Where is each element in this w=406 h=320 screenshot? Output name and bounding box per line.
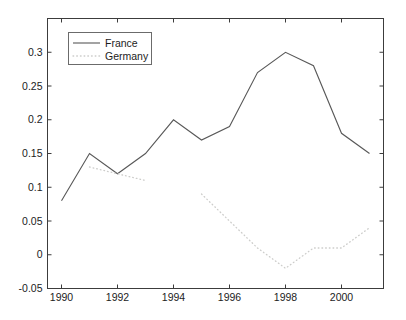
x-tick-label: 1990	[50, 291, 74, 303]
legend-label-germany: Germany	[105, 50, 149, 62]
germany-line	[202, 194, 370, 268]
y-tick-label: 0.3	[28, 46, 43, 58]
y-tick-label: 0.05	[22, 215, 43, 227]
chart-svg: 199019921994199619982000-0.0500.050.10.1…	[0, 0, 406, 320]
y-tick-label: 0.15	[22, 147, 43, 159]
y-tick-label: 0.25	[22, 80, 43, 92]
legend-label-france: France	[105, 37, 138, 49]
x-tick-label: 2000	[330, 291, 354, 303]
x-tick-label: 1992	[106, 291, 130, 303]
y-tick-label: 0	[37, 248, 43, 260]
x-tick-label: 1994	[162, 291, 186, 303]
x-tick-label: 1998	[274, 291, 298, 303]
figure: 199019921994199619982000-0.0500.050.10.1…	[0, 0, 406, 320]
france-line	[62, 52, 370, 201]
x-tick-label: 1996	[218, 291, 242, 303]
y-tick-label: 0.1	[28, 181, 43, 193]
y-tick-label: -0.05	[19, 282, 43, 294]
y-tick-label: 0.2	[28, 113, 43, 125]
